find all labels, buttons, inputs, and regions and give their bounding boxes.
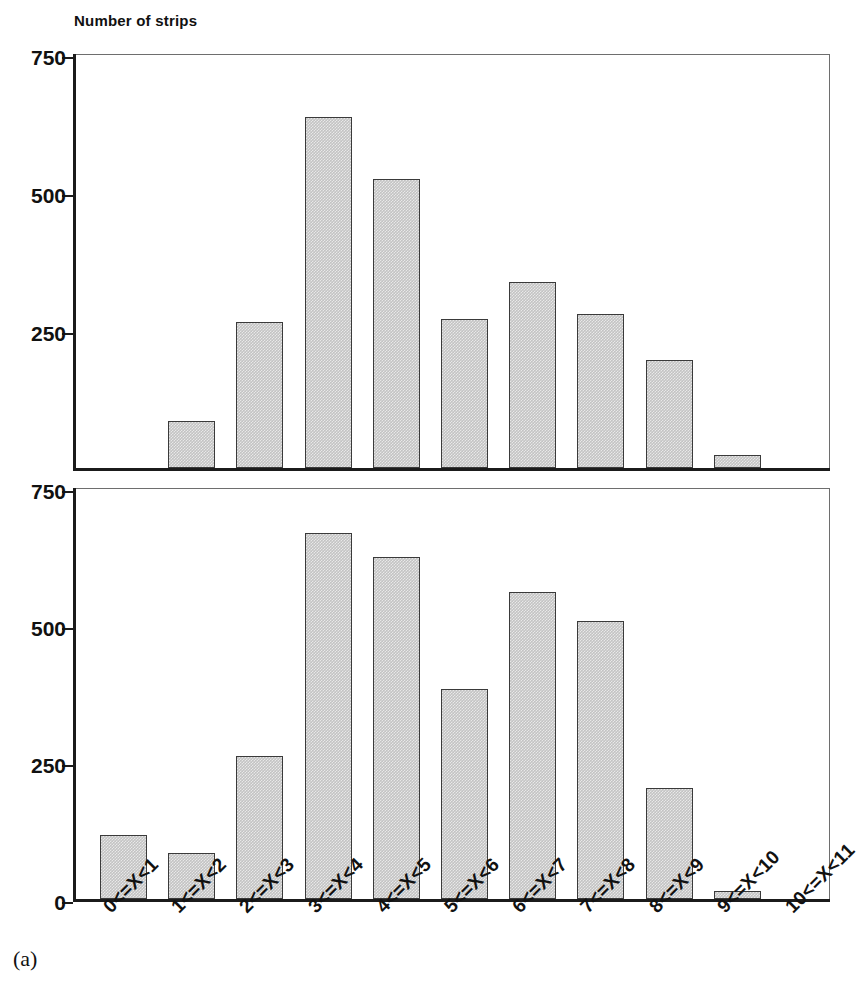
bar-upper-8	[646, 360, 693, 468]
bar-upper-9	[714, 455, 761, 468]
bar-lower-3	[305, 533, 352, 899]
panel-right-border	[829, 54, 830, 471]
x-axis-line-upper	[73, 468, 830, 471]
histogram-figure: Number of strips 250500750 0250500750 0<…	[0, 0, 856, 998]
y-tick-label: 750	[31, 47, 66, 68]
y-tick-label: 250	[31, 323, 66, 344]
bar-upper-5	[441, 319, 488, 468]
panel-right-border-lower	[829, 488, 830, 902]
y-tick-label: 500	[31, 618, 66, 639]
plot-area-upper	[76, 54, 829, 468]
figure-caption: (a)	[13, 946, 37, 972]
bar-upper-7	[577, 314, 624, 468]
x-axis-tick-labels: 0<=X<11<=X<22<=X<33<=X<44<=X<55<=X<66<=X…	[73, 902, 830, 998]
bar-lower-7	[577, 621, 624, 899]
y-tick-label: 0	[54, 892, 66, 913]
bar-lower-6	[509, 592, 556, 899]
bar-upper-3	[305, 117, 352, 468]
bar-upper-2	[236, 322, 283, 468]
bar-upper-1	[168, 421, 215, 468]
bar-upper-6	[509, 282, 556, 468]
bar-upper-4	[373, 179, 420, 468]
bar-lower-4	[373, 557, 420, 900]
y-tick-label: 750	[31, 481, 66, 502]
chart-panel-lower: 0250500750	[73, 488, 830, 902]
y-tick-label: 500	[31, 185, 66, 206]
chart-panel-upper: 250500750	[73, 54, 830, 471]
y-axis-title: Number of strips	[74, 12, 197, 29]
y-tick-label: 250	[31, 755, 66, 776]
plot-area-lower	[76, 488, 829, 899]
